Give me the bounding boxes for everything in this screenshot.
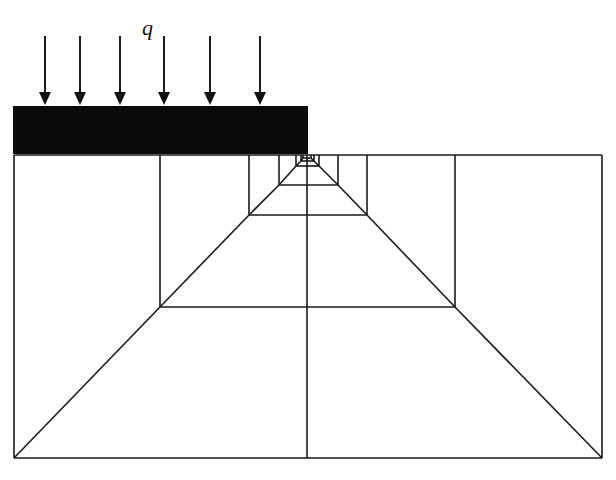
mesh-diagonal — [367, 215, 455, 307]
footing-block — [13, 106, 308, 154]
footing-mesh-diagram: q — [0, 0, 616, 480]
mesh-diagonal — [338, 185, 367, 215]
load-label-q: q — [142, 15, 153, 40]
mesh-diagonal — [319, 166, 338, 185]
mesh-diagonal — [455, 307, 602, 458]
mesh-diagonal — [14, 307, 160, 458]
load-arrow-icon — [74, 36, 86, 105]
mesh-diagonal — [279, 166, 296, 185]
load-arrow-icon — [114, 36, 126, 105]
load-arrow-icon — [254, 36, 266, 105]
load-arrow-icon — [39, 36, 51, 105]
mesh-diagonal — [160, 215, 249, 307]
soil-mesh — [14, 155, 602, 458]
load-arrow-icon — [158, 36, 170, 105]
distributed-load-arrows — [39, 36, 266, 105]
load-arrow-icon — [204, 36, 216, 105]
mesh-diagonal — [249, 185, 279, 215]
